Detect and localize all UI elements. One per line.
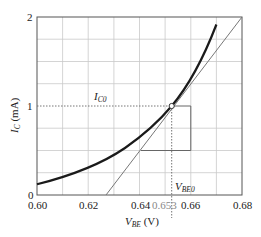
y-tick-1: 1 — [27, 100, 33, 112]
ic0-label: IC0 — [93, 90, 107, 104]
vbe0-label: VBE0 — [175, 180, 195, 194]
x-tick-0.64: 0.64 — [131, 199, 151, 211]
x-tick-0.62: 0.62 — [79, 199, 98, 211]
x-tick-0.66: 0.66 — [181, 199, 201, 211]
x-tick-0.653: 0.653 — [152, 199, 177, 211]
y-tick-2: 2 — [27, 11, 33, 23]
operating-point-marker — [169, 103, 174, 108]
ic-curve — [37, 25, 216, 185]
ic-vbe-chart: 2 1 0 0.60 0.62 0.64 0.653 0.66 0.68 IC0… — [0, 0, 261, 237]
y-axis-label: IC (mA) — [8, 97, 22, 134]
x-tick-0.60: 0.60 — [28, 199, 48, 211]
x-axis-label: VBE (V) — [125, 215, 159, 229]
x-tick-0.68: 0.68 — [233, 199, 253, 211]
